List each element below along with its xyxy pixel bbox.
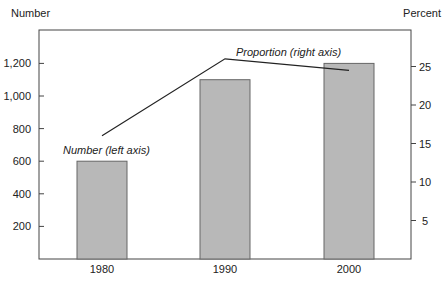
bar-1980 [77,161,127,259]
x-tick-label: 1990 [213,263,237,275]
right-tick-label: 15 [419,138,431,150]
left-tick-label: 800 [13,123,31,135]
bar-series [77,63,374,259]
bar-2000 [324,63,374,259]
right-axis-title: Percent [403,7,441,19]
annotation-proportion-right-axis: Proportion (right axis) [236,46,341,58]
left-tick-label: 1,000 [3,90,31,102]
x-axis-labels: 198019902000 [90,263,361,275]
right-tick-label: 20 [419,99,431,111]
left-tick-label: 600 [13,155,31,167]
dual-axis-bar-line-chart: Number Percent 2004006008001,0001,200 51… [0,0,443,288]
annotation-number-left-axis: Number (left axis) [63,144,150,156]
right-axis-ticks: 510152025 [411,61,431,227]
left-axis-ticks: 2004006008001,0001,200 [3,57,44,232]
x-tick-label: 2000 [337,263,361,275]
left-axis-title: Number [11,7,50,19]
bar-1990 [200,80,250,259]
x-tick-label: 1980 [90,263,114,275]
right-tick-label: 25 [419,61,431,73]
right-tick-label: 10 [419,176,431,188]
left-tick-label: 200 [13,220,31,232]
left-tick-label: 1,200 [3,57,31,69]
left-tick-label: 400 [13,188,31,200]
right-tick-label: 5 [422,215,428,227]
